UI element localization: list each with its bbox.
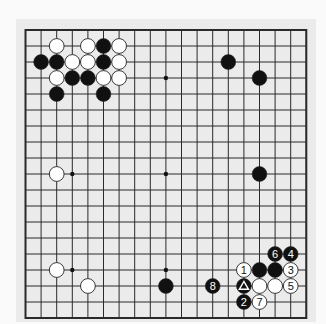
stone-circle — [49, 55, 64, 70]
move-number-label: 5 — [288, 280, 294, 292]
move-number-label: 6 — [272, 248, 278, 260]
star-point — [70, 268, 74, 272]
stone-circle — [252, 263, 267, 278]
black-stone — [65, 71, 80, 86]
black-stone — [237, 279, 252, 294]
stone-circle — [49, 87, 64, 102]
white-stone — [96, 71, 111, 86]
stone-circle — [34, 55, 49, 70]
stone-circle — [112, 71, 127, 86]
stone-circle — [49, 167, 64, 182]
stone-circle — [252, 167, 267, 182]
black-stone — [252, 71, 267, 86]
black-stone — [221, 55, 236, 70]
white-stone — [49, 263, 64, 278]
stone-circle — [96, 71, 111, 86]
white-stone — [49, 39, 64, 54]
white-stone — [112, 39, 127, 54]
stone-circle — [96, 39, 111, 54]
white-stone — [81, 55, 96, 70]
white-stone — [112, 71, 127, 86]
move-number-label: 1 — [241, 264, 247, 276]
stone-circle — [221, 55, 236, 70]
move-number-label: 4 — [288, 248, 294, 260]
move-number-label: 3 — [288, 264, 294, 276]
stone-circle — [49, 71, 64, 86]
star-point — [164, 268, 168, 272]
black-stone — [49, 55, 64, 70]
white-stone — [112, 55, 127, 70]
stone-circle — [112, 39, 127, 54]
white-stone — [268, 279, 283, 294]
stone-circle — [65, 55, 80, 70]
star-point — [164, 172, 168, 176]
black-stone — [268, 263, 283, 278]
white-stone — [49, 167, 64, 182]
black-stone: 4 — [283, 247, 298, 262]
white-stone — [81, 39, 96, 54]
stone-circle — [49, 39, 64, 54]
white-stone — [81, 279, 96, 294]
white-stone — [252, 279, 267, 294]
stone-circle — [252, 279, 267, 294]
black-stone — [252, 263, 267, 278]
stone-circle — [96, 87, 111, 102]
black-stone: 2 — [237, 295, 252, 310]
stone-circle — [81, 55, 96, 70]
black-stone — [81, 71, 96, 86]
stone-circle — [49, 263, 64, 278]
stone-circle — [252, 71, 267, 86]
stone-circle — [81, 71, 96, 86]
white-stone: 1 — [237, 263, 252, 278]
stone-circle — [65, 71, 80, 86]
black-stone — [34, 55, 49, 70]
black-stone — [252, 167, 267, 182]
stone-circle — [268, 279, 283, 294]
black-stone — [96, 87, 111, 102]
white-stone: 3 — [283, 263, 298, 278]
star-point — [164, 76, 168, 80]
stone-circle — [112, 55, 127, 70]
stone-circle — [81, 39, 96, 54]
black-stone: 6 — [268, 247, 283, 262]
stone-circle — [159, 279, 174, 294]
black-stone — [159, 279, 174, 294]
stone-circle — [96, 55, 111, 70]
white-stone: 5 — [283, 279, 298, 294]
stone-circle — [268, 263, 283, 278]
white-stone: 7 — [252, 295, 267, 310]
black-stone — [96, 39, 111, 54]
go-board: 64138527 — [0, 0, 326, 324]
black-stone — [96, 55, 111, 70]
star-point — [70, 172, 74, 176]
black-stone: 8 — [205, 279, 220, 294]
white-stone — [49, 71, 64, 86]
stone-circle — [81, 279, 96, 294]
move-number-label: 8 — [210, 280, 216, 292]
move-number-label: 7 — [256, 296, 262, 308]
black-stone — [49, 87, 64, 102]
white-stone — [65, 55, 80, 70]
move-number-label: 2 — [241, 296, 247, 308]
